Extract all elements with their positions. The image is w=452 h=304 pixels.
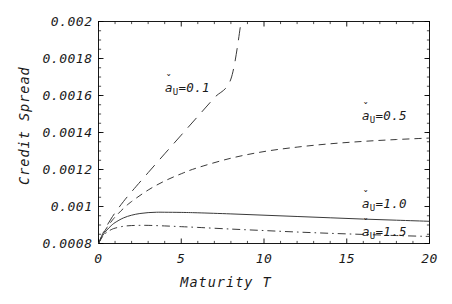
y-axis-title: Credit Spread <box>16 66 32 185</box>
curve-label-3: aU=1.5 <box>362 224 407 241</box>
label-value: =1.5 <box>376 224 407 239</box>
y-tick-label: 0.0016 <box>43 88 93 103</box>
curve-label-0: aU=0.1 <box>165 80 210 97</box>
x-tick-label: 5 <box>161 251 201 266</box>
label-value: =1.0 <box>376 196 407 211</box>
curve-label-2: aU=1.0 <box>362 196 407 213</box>
x-tick-label: 15 <box>327 251 367 266</box>
plot-canvas <box>0 0 452 304</box>
label-symbol: a <box>362 196 370 211</box>
y-tick-label: 0.002 <box>51 14 93 29</box>
y-tick-label: 0.0014 <box>43 125 93 140</box>
curve-label-1: aU=0.5 <box>362 108 407 125</box>
label-symbol: a <box>362 224 370 239</box>
y-tick-label: 0.0008 <box>43 236 93 251</box>
x-axis-title: Maturity T <box>0 274 452 290</box>
x-tick-label: 10 <box>244 251 284 266</box>
curve-0 <box>99 22 242 244</box>
label-value: =0.1 <box>179 80 210 95</box>
x-tick-label: 20 <box>410 251 450 266</box>
label-symbol: a <box>165 80 173 95</box>
y-tick-label: 0.001 <box>51 199 93 214</box>
y-tick-label: 0.0012 <box>43 162 93 177</box>
label-value: =0.5 <box>376 108 407 123</box>
y-tick-label: 0.0018 <box>43 51 93 66</box>
x-tick-label: 0 <box>79 251 119 266</box>
label-symbol: a <box>362 108 370 123</box>
credit-spread-chart-figure: 0.00080.0010.00120.00140.00160.00180.002… <box>0 0 452 304</box>
